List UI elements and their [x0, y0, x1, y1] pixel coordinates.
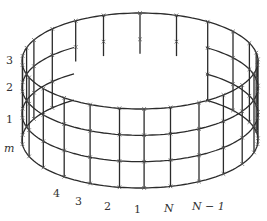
column-label-2: 2 — [104, 200, 111, 213]
labels: 3 2 1 m 4 3 2 1 N N − 1 — [4, 54, 225, 216]
cylindrical-grid-diagram: 3 2 1 m 4 3 2 1 N N − 1 — [0, 0, 267, 221]
ring-label-1: 1 — [6, 113, 13, 126]
ring-label-2: 2 — [6, 81, 13, 94]
ring-label-3: 3 — [6, 54, 13, 67]
column-label-3: 3 — [75, 195, 82, 208]
column-label-4: 4 — [53, 187, 60, 200]
column-label-N: N — [163, 202, 174, 215]
column-label-1: 1 — [134, 203, 141, 216]
ring-label-m: m — [4, 142, 14, 155]
column-label-N-minus-1: N − 1 — [191, 200, 225, 213]
